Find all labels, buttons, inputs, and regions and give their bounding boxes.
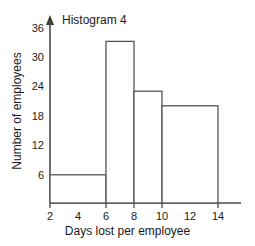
x-tick-label-14: 14 — [212, 211, 224, 222]
histogram-bar — [134, 91, 162, 203]
x-tick-label-8: 8 — [131, 211, 137, 222]
x-axis-label: Days lost per employee — [0, 224, 255, 238]
chart-title: Histogram 4 — [62, 13, 127, 27]
histogram-bar — [162, 106, 218, 203]
histogram-figure: Histogram 4 6 12 18 24 30 36 2 4 6 8 10 … — [0, 0, 255, 246]
x-tick-label-6: 6 — [103, 211, 109, 222]
histogram-bar — [50, 175, 106, 203]
x-tick-label-12: 12 — [184, 211, 196, 222]
histogram-bar — [106, 41, 134, 203]
y-axis-label: Number of employees — [10, 31, 24, 191]
x-tick-label-2: 2 — [47, 211, 53, 222]
x-tick-label-4: 4 — [75, 211, 81, 222]
x-tick-label-10: 10 — [156, 211, 168, 222]
